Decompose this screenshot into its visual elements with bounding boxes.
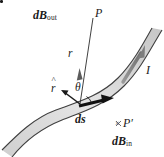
label-point-p-prime: P′ — [123, 117, 133, 129]
label-dB-in-base: dB — [112, 134, 126, 148]
label-current-i: I — [146, 64, 150, 76]
label-r-vector: r — [68, 48, 72, 60]
label-dB-out-subscript: out — [47, 13, 57, 22]
label-dB-in: dBin — [112, 135, 132, 148]
r-arrowhead-icon — [77, 68, 83, 81]
label-r-hat: ^r — [51, 83, 55, 95]
label-point-p: P — [95, 7, 102, 19]
label-dB-out: dBout — [33, 9, 57, 22]
label-theta: θ — [75, 82, 81, 94]
label-ds: ds — [75, 113, 86, 125]
label-into-page-mark: × — [115, 120, 120, 128]
label-dB-out-base: dB — [33, 8, 47, 22]
label-dB-in-subscript: in — [126, 139, 132, 148]
biot-savart-figure: dBout P r ^r θ ds I × P′ dBin — [0, 0, 164, 157]
figure-canvas — [0, 0, 164, 157]
